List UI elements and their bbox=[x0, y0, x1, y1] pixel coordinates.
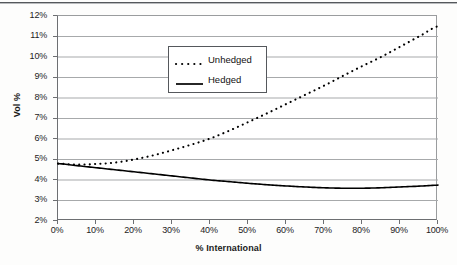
y-axis-title: Vol % bbox=[12, 75, 22, 135]
x-tick-label: 50% bbox=[238, 226, 255, 235]
x-tick-label: 70% bbox=[314, 226, 331, 235]
x-tick-mark bbox=[171, 220, 172, 224]
y-tick-label: 12% bbox=[30, 11, 47, 20]
y-tick-label: 11% bbox=[30, 31, 47, 40]
y-tick-label: 5% bbox=[34, 154, 47, 163]
x-tick-label: 90% bbox=[390, 226, 407, 235]
x-tick-label: 80% bbox=[352, 226, 369, 235]
x-tick-mark bbox=[285, 220, 286, 224]
plot-area: Unhedged Hedged bbox=[57, 15, 437, 220]
x-tick-label: 100% bbox=[426, 226, 448, 235]
x-tick-mark bbox=[95, 220, 96, 224]
legend-item-hedged: Hedged bbox=[169, 71, 266, 89]
x-tick-mark bbox=[247, 220, 248, 224]
x-tick-mark bbox=[437, 220, 438, 224]
x-tick-label: 0% bbox=[51, 226, 64, 235]
x-tick-mark bbox=[361, 220, 362, 224]
x-tick-label: 40% bbox=[200, 226, 217, 235]
x-tick-label: 20% bbox=[124, 226, 141, 235]
x-tick-mark bbox=[323, 220, 324, 224]
x-tick-mark bbox=[399, 220, 400, 224]
x-tick-mark bbox=[133, 220, 134, 224]
y-tick-label: 3% bbox=[34, 195, 47, 204]
volatility-line-chart: Vol % 2%3%4%5%6%7%8%9%10%11%12% Unhedged bbox=[0, 0, 457, 265]
y-tick-label: 4% bbox=[34, 175, 47, 184]
legend-swatch-solid-icon bbox=[174, 75, 204, 85]
x-axis-title: % International bbox=[0, 243, 457, 253]
legend-label-hedged: Hedged bbox=[208, 75, 241, 85]
x-tick-label: 10% bbox=[86, 226, 103, 235]
x-tick-label: 60% bbox=[276, 226, 293, 235]
x-tick-label: 30% bbox=[162, 226, 179, 235]
series-line-hedged bbox=[58, 164, 438, 189]
y-tick-label: 8% bbox=[34, 93, 47, 102]
x-tick-mark bbox=[209, 220, 210, 224]
legend-item-unhedged: Unhedged bbox=[169, 51, 266, 69]
y-tick-label: 10% bbox=[30, 52, 47, 61]
legend-label-unhedged: Unhedged bbox=[208, 55, 252, 65]
x-tick-mark bbox=[57, 220, 58, 224]
legend-swatch-dotted-icon bbox=[174, 55, 204, 65]
y-tick-label: 7% bbox=[34, 113, 47, 122]
y-tick-label: 9% bbox=[34, 72, 47, 81]
y-tick-label: 6% bbox=[34, 134, 47, 143]
legend: Unhedged Hedged bbox=[168, 46, 267, 93]
